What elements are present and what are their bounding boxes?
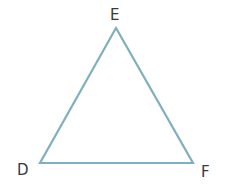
- triangle-diagram: E D F: [0, 0, 226, 187]
- vertex-label-e: E: [110, 6, 119, 24]
- vertex-label-f: F: [201, 163, 210, 181]
- triangle-def: [40, 28, 193, 163]
- vertex-label-d: D: [17, 161, 29, 179]
